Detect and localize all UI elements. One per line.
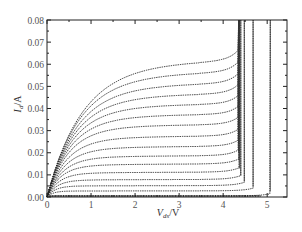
data-curves	[47, 20, 270, 197]
iv-curve	[47, 20, 239, 197]
iv-curve	[47, 20, 253, 197]
iv-curve	[47, 20, 239, 197]
y-tick-label: 0.08	[27, 16, 44, 26]
y-tick-label: 0.02	[27, 148, 44, 158]
y-tick-label: 0.07	[27, 38, 44, 48]
y-axis-label: Id/A	[12, 95, 25, 114]
iv-curve	[47, 20, 239, 197]
iv-curve	[47, 20, 239, 197]
iv-curve	[47, 20, 239, 197]
y-tick-label: 0.03	[27, 126, 44, 136]
y-tick-label: 0.05	[27, 82, 44, 92]
y-axis-ticks: 0.000.010.020.030.040.050.060.070.08	[27, 16, 287, 203]
x-axis-ticks: 012345	[45, 20, 270, 210]
iv-curve	[47, 20, 239, 197]
iv-curve	[47, 20, 241, 197]
iv-curve	[47, 20, 239, 197]
iv-curve	[47, 20, 239, 197]
x-tick-label: 1	[89, 200, 94, 210]
iv-curve	[47, 20, 239, 197]
iv-curve	[47, 20, 270, 197]
y-tick-label: 0.06	[27, 60, 44, 70]
iv-curve	[47, 20, 244, 197]
x-tick-label: 5	[265, 200, 270, 210]
x-tick-label: 4	[221, 200, 226, 210]
iv-curve	[47, 20, 239, 197]
y-tick-label: 0.01	[27, 170, 44, 180]
output-characteristics-chart: 012345 0.000.010.020.030.040.050.060.070…	[0, 0, 302, 232]
iv-curve	[47, 20, 239, 197]
x-tick-label: 2	[133, 200, 138, 210]
iv-curve	[47, 20, 239, 197]
y-tick-label: 0.04	[27, 104, 44, 114]
plot-frame	[47, 20, 287, 197]
y-tick-label: 0.00	[27, 193, 44, 203]
x-tick-label: 0	[45, 200, 50, 210]
x-axis-label: Vds/V	[157, 207, 180, 220]
